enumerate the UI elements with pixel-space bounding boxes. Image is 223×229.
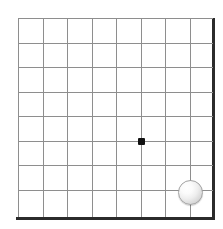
grid-line-vertical-2 [67,18,68,217]
grid-line-vertical-0 [18,18,19,217]
go-board-figure [0,0,223,229]
grid-line-vertical-4 [116,18,117,217]
grid-line-horizontal-6 [18,165,213,166]
grid-line-horizontal-3 [18,92,213,93]
grid-line-horizontal-4 [18,116,213,117]
grid-line-horizontal-5 [18,141,213,142]
grid-line-horizontal-2 [18,67,213,68]
goban-grid[interactable] [0,0,223,229]
star-point[interactable] [138,138,145,145]
grid-line-horizontal-0 [18,18,213,19]
grid-line-horizontal-1 [18,43,213,44]
grid-line-vertical-1 [43,18,44,217]
grid-line-vertical-6 [165,18,166,217]
grid-line-vertical-3 [92,18,93,217]
white-stone[interactable] [178,180,203,205]
board-edge-bottom [16,217,215,220]
grid-line-vertical-5 [141,18,142,217]
